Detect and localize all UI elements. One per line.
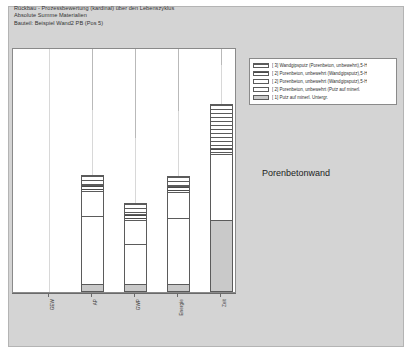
chart-legend: [ 3] Wandgipsputz (Porenbeton, unbewehrt… [249, 58, 397, 105]
x-axis-tick [48, 293, 49, 297]
bar-segment-porenbeton-b [210, 154, 233, 220]
title-block: Rückbau - Prozessbewertung (kardinal) üb… [14, 5, 244, 27]
bar-segment-putz [210, 220, 233, 292]
legend-item-label: [ 2] Porenbeton, unbewehrt (Putz auf min… [272, 87, 360, 92]
bar-segment-putz [167, 284, 190, 292]
x-axis-label-gew: GEW [50, 299, 55, 310]
page-title: Rückbau - Prozessbewertung (kardinal) üb… [14, 5, 244, 12]
legend-swatch-white-icon [253, 79, 269, 85]
x-axis-tick [91, 293, 92, 297]
legend-item[interactable]: [ 1] Putz auf minerl. Untergr. [253, 94, 393, 101]
bar-segment-wandgipsputz [81, 175, 104, 185]
bar-segment-wandgipsputz [124, 203, 147, 214]
legend-swatch-grid-icon [253, 71, 269, 77]
bar-energie[interactable] [167, 176, 190, 292]
x-axis-tick [177, 293, 178, 297]
bar-group [13, 49, 235, 292]
bar-segment-porenbeton-b [167, 218, 190, 284]
x-axis-tick [134, 293, 135, 297]
legend-item-label: [ 2] Porenbeton, unbewehrt (Wandgipsputz… [272, 79, 367, 84]
screenshot-root: Rückbau - Prozessbewertung (kardinal) üb… [0, 0, 412, 353]
bar-gwp[interactable] [124, 203, 147, 292]
bar-segment-putz [124, 284, 147, 292]
legend-item-label: [ 3] Wandgipsputz (Porenbeton, unbewehrt… [272, 63, 367, 68]
legend-item-label: [ 1] Putz auf minerl. Untergr. [272, 95, 328, 100]
x-axis-label-zeit: Zeit [222, 299, 227, 307]
legend-item[interactable]: [ 2] Porenbeton, unbewehrt (Putz auf min… [253, 86, 393, 93]
legend-item[interactable]: [ 2] Porenbeton, unbewehrt (Wandgipsputz… [253, 70, 393, 77]
bar-segment-wandgipsputz [167, 176, 190, 186]
chart-annotation: Porenbetonwand [262, 168, 330, 178]
legend-swatch-gray-icon [253, 95, 269, 101]
bar-segment-wandgipsputz [210, 104, 233, 148]
bar-segment-porenbeton-a [124, 220, 147, 244]
bar-segment-putz [81, 284, 104, 292]
x-axis-label-gwp: GWP [136, 299, 141, 310]
legend-swatch-horizontal-lines-icon [253, 63, 269, 69]
bar-segment-porenbeton-b [81, 216, 104, 284]
legend-item[interactable]: [ 2] Porenbeton, unbewehrt (Wandgipsputz… [253, 78, 393, 85]
chart-plot-area [12, 48, 236, 293]
x-axis-label-ap: AP [93, 299, 98, 305]
bar-segment-porenbeton-b [124, 244, 147, 284]
legend-item-label: [ 2] Porenbeton, unbewehrt (Wandgipsputz… [272, 71, 367, 76]
x-axis-label-energie: Energie [179, 299, 184, 316]
bar-ap[interactable] [81, 175, 104, 292]
bar-zeit[interactable] [210, 104, 233, 292]
axis-band [12, 293, 236, 333]
x-axis-line [12, 293, 236, 294]
legend-item[interactable]: [ 3] Wandgipsputz (Porenbeton, unbewehrt… [253, 62, 393, 69]
bar-segment-porenbeton-a [167, 192, 190, 218]
page-subtitle: Absolute Summe Materialien [14, 12, 244, 19]
x-axis-tick [220, 293, 221, 297]
page-component-label: Bauteil: Beispiel Wand2 PB (Pos 5) [14, 20, 244, 27]
bar-segment-porenbeton-a [81, 191, 104, 216]
legend-swatch-white-icon [253, 87, 269, 93]
